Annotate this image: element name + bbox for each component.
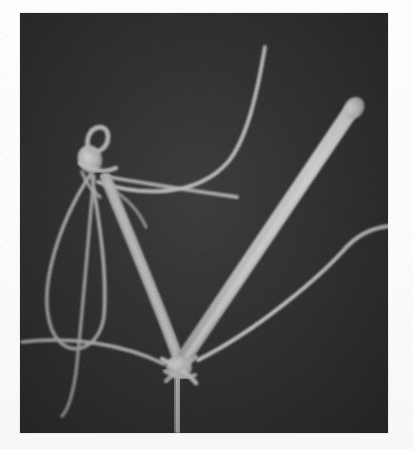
figure-root bbox=[0, 0, 413, 449]
micrograph-panel bbox=[20, 13, 388, 433]
figure-caption bbox=[20, 435, 388, 447]
micrograph-canvas bbox=[20, 13, 388, 433]
coarse-grain-overlay bbox=[20, 13, 388, 433]
